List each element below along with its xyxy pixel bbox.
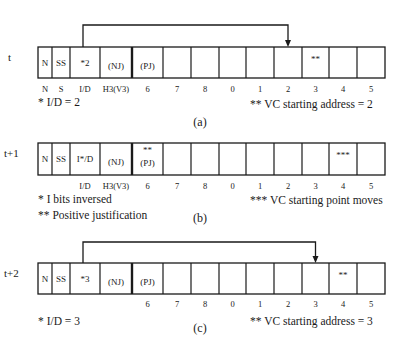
column-label: 0	[230, 181, 234, 191]
panel-caption: (c)	[193, 321, 206, 335]
panel-caption: (a)	[193, 115, 206, 129]
cell-label: (NJ)	[108, 277, 124, 287]
cell-label: (NJ)	[108, 61, 124, 71]
cell-label: SS	[56, 274, 66, 284]
panel-caption: (b)	[193, 211, 207, 225]
pointer-arrowhead-icon	[285, 40, 291, 47]
column-label: 4	[341, 181, 346, 191]
cell-label: I*/D	[77, 154, 94, 164]
cell-label: N	[42, 154, 49, 164]
column-label: 2	[286, 181, 290, 191]
frame-row	[38, 263, 385, 294]
cell-label: (PJ)	[140, 158, 155, 168]
note-left: * I/D = 2	[38, 96, 80, 108]
column-label: 8	[203, 299, 207, 309]
time-label: t+2	[4, 267, 19, 279]
cell-label: SS	[56, 58, 66, 68]
column-label: 1	[258, 84, 262, 94]
note-left: ** Positive justification	[38, 209, 147, 222]
column-label: 5	[369, 84, 373, 94]
note-left: * I/D = 3	[38, 315, 80, 327]
column-label: 1	[258, 299, 262, 309]
note-right: ** VC starting address = 2	[250, 98, 373, 111]
cell-label: SS	[56, 154, 66, 164]
pointer-justification-diagram: tNSS*2(NJ)(PJ)**NSI/DH3(V3)678012345* I/…	[0, 0, 408, 355]
column-label: 3	[313, 84, 317, 94]
column-label: N	[42, 84, 48, 94]
column-label: 2	[286, 84, 290, 94]
column-label: 6	[145, 181, 149, 191]
column-label: 2	[286, 299, 290, 309]
column-label: I/D	[79, 84, 90, 94]
cell-label: (PJ)	[140, 61, 155, 71]
cell-label: *2	[81, 58, 90, 68]
pointer-arrow-line	[83, 25, 288, 47]
column-label: 7	[175, 299, 179, 309]
pointer-arrow-line	[83, 242, 316, 263]
cell-label: ***	[336, 150, 350, 160]
column-label: 7	[175, 181, 179, 191]
column-label: H3(V3)	[103, 84, 130, 94]
column-label: 3	[313, 299, 317, 309]
column-label: 7	[175, 84, 179, 94]
column-label: 8	[203, 181, 207, 191]
cell-top-mark: **	[143, 145, 153, 155]
cell-label: N	[42, 58, 49, 68]
cell-label: (PJ)	[140, 277, 155, 287]
column-label: 8	[203, 84, 207, 94]
cell-label: *3	[81, 274, 91, 284]
column-label: H3(V3)	[103, 181, 130, 191]
cell-label: N	[42, 274, 49, 284]
column-label: I/D	[79, 181, 90, 191]
note-left: * I bits inversed	[38, 193, 112, 205]
column-label: S	[59, 84, 64, 94]
note-right: *** VC starting point moves	[250, 194, 383, 207]
column-label: 4	[341, 299, 346, 309]
column-label: 6	[145, 299, 149, 309]
time-label: t	[8, 51, 11, 63]
cell-label: (NJ)	[108, 157, 124, 167]
column-label: 0	[230, 84, 234, 94]
column-label: 4	[341, 84, 346, 94]
pointer-arrowhead-icon	[313, 256, 319, 263]
cell-label: **	[339, 270, 349, 280]
column-label: 0	[230, 299, 234, 309]
frame-row	[38, 47, 385, 78]
cell-label: **	[311, 54, 321, 64]
time-label: t+1	[4, 147, 19, 159]
column-label: 5	[369, 181, 373, 191]
note-right: ** VC starting address = 3	[250, 315, 373, 328]
column-label: 3	[313, 181, 317, 191]
column-label: 5	[369, 299, 373, 309]
column-label: 1	[258, 181, 262, 191]
column-label: 6	[145, 84, 149, 94]
